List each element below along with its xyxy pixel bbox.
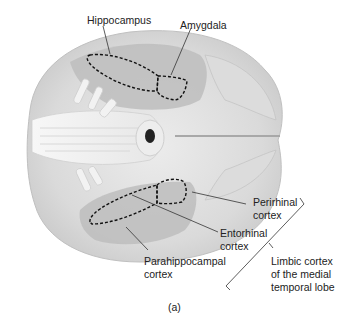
label-parahippocampal-line2: cortex	[144, 268, 173, 280]
brainstem	[32, 111, 164, 165]
label-perirhinal-line1: Perirhinal	[253, 196, 297, 208]
brain-diagram: Hippocampus Amygdala Perirhinal cortex E…	[0, 0, 352, 317]
label-entorhinal-line1: Entorhinal	[220, 227, 267, 239]
label-amygdala: Amygdala	[180, 19, 227, 31]
label-entorhinal-line2: cortex	[220, 240, 249, 252]
label-limbic-line1: Limbic cortex	[271, 255, 333, 267]
label-limbic-line3: temporal lobe	[271, 281, 335, 293]
label-perirhinal-line2: cortex	[253, 209, 282, 221]
panel-label: (a)	[168, 301, 181, 313]
label-limbic-line2: of the medial	[271, 268, 331, 280]
label-parahippocampal-line1: Parahippocampal	[144, 255, 226, 267]
label-hippocampus: Hippocampus	[87, 14, 151, 26]
